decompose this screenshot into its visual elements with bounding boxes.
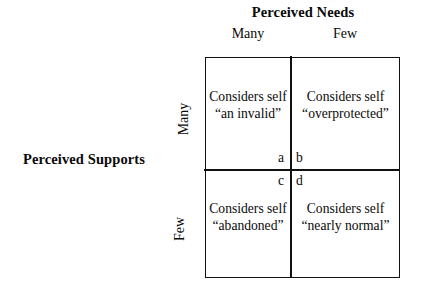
row-header-many: Many [168,112,184,126]
cell-letter-c: c [206,174,284,188]
quadrant-a-text: Considers self “an invalid” [206,88,290,122]
row-header-few-text: Few [173,217,187,241]
row-axis-title: Perceived Supports [8,152,160,167]
quadrant-c-line2: “abandoned” [206,217,290,234]
horizontal-divider [204,169,399,171]
quadrant-b-text: Considers self “overprotected” [291,88,400,122]
quadrant-d-line1: Considers self [291,200,400,217]
column-header-few: Few [290,27,400,41]
perceived-needs-supports-matrix-figure: Perceived Needs Many Few Perceived Suppo… [0,0,421,291]
row-header-few: Few [168,222,184,236]
quadrant-b-line2: “overprotected” [291,105,400,122]
quadrant-c-line1: Considers self [206,200,290,217]
cell-letter-d: d [296,174,356,188]
quadrant-b-line1: Considers self [291,88,400,105]
column-header-many: Many [206,27,290,41]
quadrant-a-line2: “an invalid” [206,105,290,122]
quadrant-d-text: Considers self “nearly normal” [291,200,400,234]
matrix-box: Considers self “an invalid” Considers se… [205,57,400,278]
column-axis-title: Perceived Needs [206,5,400,20]
quadrant-a-line1: Considers self [206,88,290,105]
cell-letter-a: a [206,151,284,165]
quadrant-c-text: Considers self “abandoned” [206,200,290,234]
cell-letter-b: b [296,151,356,165]
quadrant-d-line2: “nearly normal” [291,217,400,234]
row-header-many-text: Many [177,103,191,136]
